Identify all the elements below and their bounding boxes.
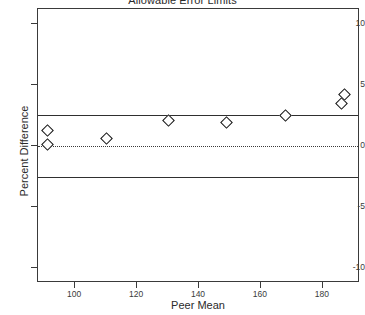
data-point[interactable] (279, 109, 292, 122)
lower-allowable-error-limit (38, 177, 358, 178)
x-axis-tick (322, 282, 323, 288)
y-axis-tick (31, 206, 37, 207)
x-axis-tick-label: 160 (240, 289, 280, 299)
chart-container: Allowable Error Limits 1050-5-10 1001201… (0, 0, 365, 315)
y-axis-tick (31, 267, 37, 268)
data-point[interactable] (220, 116, 233, 129)
y-axis-tick-label: -10 (339, 262, 365, 272)
y-axis-tick (31, 84, 37, 85)
y-axis-tick (31, 23, 37, 24)
x-axis-tick (74, 282, 75, 288)
plot-area (37, 8, 359, 282)
y-axis-title: Percent Difference (18, 71, 30, 231)
x-axis-title: Peer Mean (37, 299, 359, 311)
x-axis-tick-label: 180 (302, 289, 342, 299)
data-point[interactable] (41, 138, 54, 151)
x-axis-tick-label: 100 (54, 289, 94, 299)
x-axis-tick (136, 282, 137, 288)
upper-allowable-error-limit (38, 115, 358, 116)
y-axis-tick (31, 145, 37, 146)
y-axis-tick-label: 0 (339, 140, 365, 150)
data-point[interactable] (100, 132, 113, 145)
y-axis-tick-label: 10 (339, 18, 365, 28)
zero-difference-line (38, 146, 358, 147)
x-axis-tick (260, 282, 261, 288)
data-point[interactable] (41, 124, 54, 137)
x-axis-tick-label: 120 (116, 289, 156, 299)
y-axis-tick-label: -5 (339, 201, 365, 211)
x-axis-tick (198, 282, 199, 288)
chart-title: Allowable Error Limits (0, 0, 365, 6)
x-axis-tick-label: 140 (178, 289, 218, 299)
y-axis-tick-label: 5 (339, 79, 365, 89)
